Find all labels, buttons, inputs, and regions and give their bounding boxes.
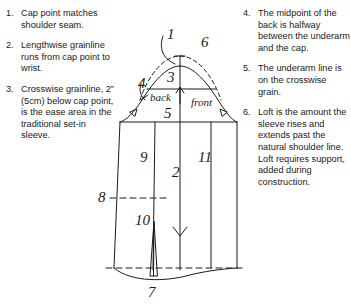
note-item: 6. Loft is the amount the sleeve rises a… xyxy=(243,107,351,188)
note-number: 3. xyxy=(6,84,21,96)
note-number: 6. xyxy=(243,107,258,119)
note-number: 1. xyxy=(6,8,21,20)
note-number: 2. xyxy=(6,40,21,52)
notes-column-right: 4. The midpoint of the back is halfway b… xyxy=(243,8,351,197)
note-number: 5. xyxy=(243,63,258,75)
diagram-label-9: 9 xyxy=(140,150,148,165)
elbow-dart xyxy=(150,222,157,276)
note-text: Lengthwise grainline runs from cap point… xyxy=(21,40,114,75)
leader-line-4-tail xyxy=(141,95,148,100)
diagram-label-5: 5 xyxy=(164,106,172,121)
grainline-down-arrow-head xyxy=(173,227,187,236)
diagram-label-7: 7 xyxy=(148,285,156,300)
note-text: Loft is the amount the sleeve rises and … xyxy=(258,107,351,188)
left-side-seam xyxy=(114,122,120,268)
note-number: 4. xyxy=(243,8,258,20)
elbow-dart-center xyxy=(154,222,155,276)
diagram-label-3: 3 xyxy=(167,70,175,85)
diagram-label-2: 2 xyxy=(172,165,180,180)
diagram-label-front: front xyxy=(191,97,212,108)
back-seam-line xyxy=(153,122,155,270)
note-item: 2. Lengthwise grainline runs from cap po… xyxy=(6,40,114,75)
note-item: 5. The underarm line is on the crosswise… xyxy=(243,63,351,98)
note-text: The underarm line is on the crosswise gr… xyxy=(258,63,351,98)
grainline-up-arrow-head xyxy=(176,87,184,93)
diagram-label-1: 1 xyxy=(167,27,175,42)
diagram-label-8: 8 xyxy=(98,190,106,205)
front-notch-marker xyxy=(220,109,227,116)
diagram-label-6: 6 xyxy=(201,35,209,50)
note-item: 4. The midpoint of the back is halfway b… xyxy=(243,8,351,54)
diagram-label-4: 4 xyxy=(138,76,146,91)
note-text: The midpoint of the back is halfway betw… xyxy=(258,8,351,54)
wrist-hem-curve xyxy=(114,268,237,280)
notes-column-left: 1. Cap point matches shoulder seam. 2. L… xyxy=(6,8,114,151)
note-item: 1. Cap point matches shoulder seam. xyxy=(6,8,114,31)
diagram-label-back: back xyxy=(150,92,171,103)
note-text: Cap point matches shoulder seam. xyxy=(21,8,114,31)
back-notch-marker xyxy=(130,109,137,116)
diagram-label-11: 11 xyxy=(198,150,212,165)
diagram-label-10: 10 xyxy=(135,213,150,228)
note-item: 3. Crosswise grainline, 2” (5cm) below c… xyxy=(6,84,114,142)
note-text: Crosswise grainline, 2” (5cm) below cap … xyxy=(21,84,114,142)
